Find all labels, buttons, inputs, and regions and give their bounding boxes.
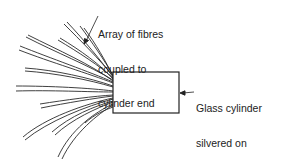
fibres-label: Array of fibres coupled to cylinder end [98, 6, 163, 121]
cylinder-label-line-1: Glass cylinder [196, 103, 262, 115]
cylinder-leader [180, 91, 194, 95]
cylinder-label-line-2: silvered on [196, 138, 262, 150]
fibres-label-line-1: Array of fibres [98, 29, 163, 41]
fibres-label-line-2: coupled to [98, 64, 163, 76]
fibres-label-line-3: cylinder end [98, 98, 163, 110]
fibres-leader [84, 16, 98, 44]
cylinder-label: Glass cylinder silvered on sides and end [196, 80, 262, 164]
